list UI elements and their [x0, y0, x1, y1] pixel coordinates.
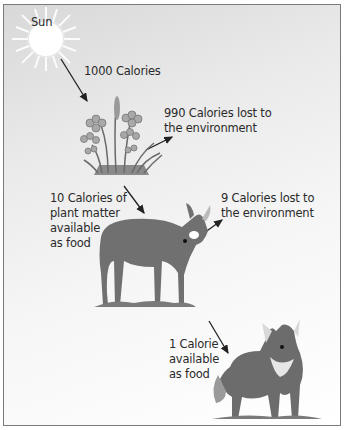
plants-illustration	[81, 96, 163, 175]
energy-pyramid-diagram: Sun 1000 Calories 990 Calories lost to t…	[3, 4, 341, 426]
wolf-illustration	[212, 319, 322, 419]
deer-loss-label: 9 Calories lost to the environment	[221, 191, 314, 221]
sun-label: Sun	[31, 15, 52, 30]
plant-available-label: 10 Calories of plant matter available as…	[50, 191, 127, 251]
wolf-available-label: 1 Calorie available as food	[169, 337, 219, 382]
plant-loss-label: 990 Calories lost to the environment	[164, 106, 272, 136]
arrow-plants-to-deer	[124, 186, 144, 213]
arrow-plant-loss	[146, 137, 172, 150]
energy-input-label: 1000 Calories	[84, 64, 161, 79]
